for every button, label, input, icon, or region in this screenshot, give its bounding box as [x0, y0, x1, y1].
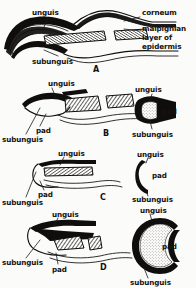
panel-D-hatched-core-2: [88, 236, 102, 250]
panel-B-xs-pad: [142, 102, 158, 120]
panel-B-xs-label-pad: pad: [162, 107, 177, 116]
figure-container: unguis subunguis corneum malpighian laye…: [0, 0, 196, 288]
panel-C-label-subunguis: subunguis: [2, 198, 43, 207]
panel-A-label-malpighian: malpighian: [142, 24, 186, 33]
panel-B-hatched-core-2: [106, 94, 134, 108]
panel-C-letter: C: [100, 193, 106, 202]
panel-B-xs-label-subunguis: subunguis: [132, 130, 173, 139]
panel-C-hatched-core: [44, 167, 93, 176]
panel-B-xs-label-unguis: unguis: [135, 85, 162, 94]
panel-B-label-unguis: unguis: [48, 79, 75, 88]
panel-B-label-pad: pad: [36, 126, 51, 135]
panel-A-label-epidermis: epidermis: [142, 42, 181, 51]
panel-D-label-unguis: unguis: [52, 210, 79, 219]
panel-C-xs-label-subunguis: subunguis: [132, 195, 173, 204]
panel-D-label-subunguis: subunguis: [2, 258, 43, 267]
panel-B-hatched-core-1: [65, 96, 101, 112]
panel-C-label-unguis: unguis: [58, 149, 85, 158]
panel-C-xs-label-unguis: unguis: [137, 150, 164, 159]
panel-B-label-subunguis: subunguis: [2, 135, 43, 144]
panel-A-label-corneum: corneum: [142, 8, 177, 17]
panel-D-letter: D: [100, 263, 107, 272]
panel-D-xs-label-subunguis: subunguis: [130, 278, 171, 287]
panel-D-xs-label-pad: pad: [162, 242, 177, 251]
panel-A-label-layer-of: layer of: [142, 33, 173, 42]
panel-D-xs-label-unguis: unguis: [140, 206, 167, 215]
panel-A-label-unguis: unguis: [32, 8, 59, 17]
panel-D-label-pad: pad: [52, 265, 67, 274]
panel-A-label-subunguis: subunguis: [32, 57, 73, 66]
panel-B-letter: B: [103, 129, 109, 138]
panel-A-letter: A: [93, 65, 100, 74]
anatomy-figure: unguis subunguis corneum malpighian laye…: [0, 0, 196, 288]
panel-C-xs-label-pad: pad: [152, 171, 167, 180]
